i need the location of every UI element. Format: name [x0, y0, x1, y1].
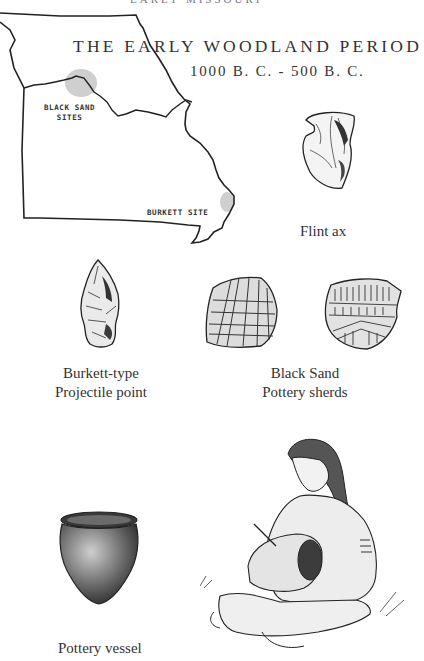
- pottery-sherd-1-illustration: [203, 270, 279, 350]
- potter-figure-illustration: [200, 436, 410, 661]
- black-sand-label-line2: SITES: [44, 113, 95, 123]
- projectile-point-caption: Burkett-type Projectile point: [36, 364, 166, 402]
- date-range: 1000 B. C. - 500 B. C.: [190, 63, 365, 80]
- pottery-sherds-caption: Black Sand Pottery sherds: [235, 364, 375, 402]
- pottery-vessel-illustration: [58, 510, 140, 608]
- projectile-point-illustration: [76, 258, 124, 350]
- pottery-sherd-2-illustration: [321, 275, 405, 351]
- projectile-caption-line2: Projectile point: [36, 383, 166, 402]
- black-sand-label-line1: BLACK SAND: [44, 103, 95, 113]
- sherds-caption-line1: Black Sand: [235, 364, 375, 383]
- pottery-vessel-caption: Pottery vessel: [58, 639, 142, 658]
- projectile-caption-line1: Burkett-type: [36, 364, 166, 383]
- black-sand-sites-label: BLACK SAND SITES: [44, 103, 95, 123]
- flint-ax-caption: Flint ax: [300, 222, 346, 241]
- black-sand-site-area: [65, 69, 97, 97]
- page-title: THE EARLY WOODLAND PERIOD: [73, 36, 422, 57]
- burkett-site-label: BURKETT SITE: [147, 208, 208, 218]
- sherds-caption-line2: Pottery sherds: [235, 383, 375, 402]
- flint-ax-illustration: [298, 110, 360, 192]
